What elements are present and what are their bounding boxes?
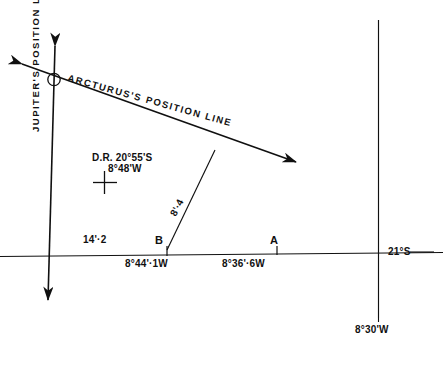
latitude-parallel-line: [0, 253, 443, 257]
point-b-label: B: [155, 234, 163, 246]
latitude-parallel-label: 21°S: [388, 246, 411, 257]
point-a-label: A: [270, 234, 278, 246]
point-b-longitude-label: 8°44'·1W: [125, 258, 168, 269]
jupiter-position-line-label: JUPITER'S POSITION LINE: [30, 0, 41, 132]
arcturus-position-line: [22, 64, 296, 162]
dr-position-cross: [93, 171, 117, 194]
dr-latitude-text: D.R. 20°55'S: [92, 152, 152, 163]
meridian-longitude-label: 8°30'W: [355, 324, 389, 335]
plot-canvas: [0, 0, 443, 371]
point-a-longitude-label: 8°36'·6W: [222, 258, 265, 269]
dr-longitude-text: 8°48'W: [92, 163, 152, 174]
navigation-plot-diagram: ARCTURUS'S POSITION LINE JUPITER'S POSIT…: [0, 0, 443, 371]
distance-a-b-label: 14'·2: [83, 234, 106, 245]
dr-position-label: D.R. 20°55'S 8°48'W: [92, 152, 152, 174]
